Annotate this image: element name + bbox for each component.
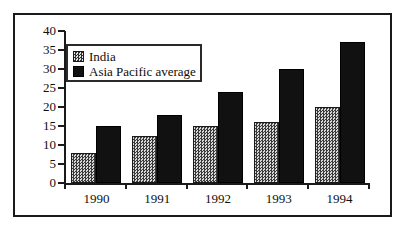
bar-india-1993: [254, 122, 279, 183]
legend-label-india: India: [89, 50, 116, 63]
legend-label-asia-pacific-average: Asia Pacific average: [89, 65, 196, 78]
x-tick-1: [125, 183, 127, 189]
bar-india-1992: [193, 126, 218, 183]
chart-legend: India Asia Pacific average: [66, 44, 202, 82]
x-axis-label-1992: 1992: [188, 191, 248, 206]
plot-area: 0510152025303540 19901991199219931994 In…: [0, 0, 407, 234]
bar-asia-pacific-average-1993: [279, 69, 304, 183]
legend-swatch-asia-pacific-average-icon: [73, 66, 84, 77]
legend-item-india: India: [73, 49, 116, 64]
x-axis-label-1993: 1993: [249, 191, 309, 206]
bar-india-1991: [132, 136, 157, 184]
x-axis-label-1991: 1991: [127, 191, 187, 206]
legend-swatch-india-icon: [73, 51, 84, 62]
x-tick-5: [368, 183, 370, 189]
x-axis-label-1990: 1990: [66, 191, 126, 206]
bars-layer: [0, 0, 407, 183]
bar-asia-pacific-average-1991: [157, 115, 182, 183]
x-tick-4: [307, 183, 309, 189]
bar-asia-pacific-average-1992: [218, 92, 243, 183]
bar-asia-pacific-average-1990: [96, 126, 121, 183]
x-tick-3: [246, 183, 248, 189]
bar-india-1994: [315, 107, 340, 183]
bar-india-1990: [71, 153, 96, 183]
x-tick-0: [64, 183, 66, 189]
chart-figure: 0510152025303540 19901991199219931994 In…: [0, 0, 407, 234]
x-axis-line: [64, 183, 370, 185]
legend-item-asia-pacific-average: Asia Pacific average: [73, 64, 196, 79]
x-tick-2: [186, 183, 188, 189]
bar-asia-pacific-average-1994: [340, 42, 365, 183]
x-axis-label-1994: 1994: [310, 191, 370, 206]
